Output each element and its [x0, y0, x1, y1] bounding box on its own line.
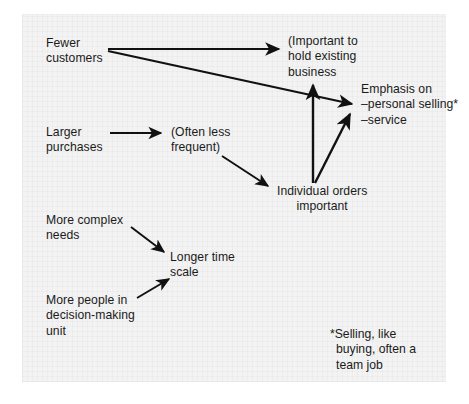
node-larger-purchases: Larger purchases [46, 125, 103, 156]
node-more-complex-needs: More complex needs [46, 213, 123, 244]
node-emphasis-on: Emphasis on –personal selling* –service [361, 82, 458, 128]
node-more-people-decision-making-unit: More people in decision-making unit [46, 293, 135, 339]
node-individual-orders: Individual orders important [277, 184, 367, 215]
node-important-hold-business: (Important to hold existing business [288, 34, 358, 80]
diagram-page: Fewer customers (Important to hold exist… [0, 0, 469, 404]
node-longer-time-scale: Longer time scale [170, 250, 235, 281]
node-often-less-frequent: (Often less frequent) [171, 125, 230, 156]
node-fewer-customers: Fewer customers [46, 36, 103, 67]
selling-footnote: *Selling, like buying, often a team job [330, 327, 416, 373]
